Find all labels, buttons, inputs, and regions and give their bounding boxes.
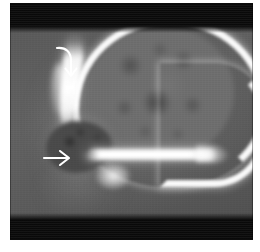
calvarium-arc-right bbox=[160, 63, 253, 187]
skull-base-junction bbox=[196, 143, 230, 163]
ct-scan-image bbox=[10, 3, 253, 240]
petrous-bone-spot bbox=[96, 163, 130, 189]
figure-root: Axial CT head image bbox=[0, 0, 260, 252]
letterbox-band-top bbox=[10, 3, 253, 26]
letterbox-band-bottom bbox=[10, 220, 253, 240]
